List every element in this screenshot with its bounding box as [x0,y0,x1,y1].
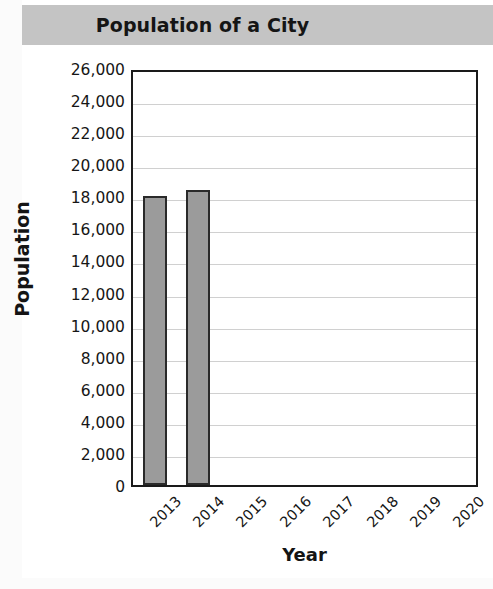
y-axis-tick-label: 12,000 [39,286,125,304]
x-axis-tick-label: 2018 [353,493,401,541]
y-axis-tick-label: 20,000 [39,157,125,175]
x-axis-tick-label: 2013 [136,493,184,541]
y-axis-tick-label: 24,000 [39,93,125,111]
chart-page: Population of a City 02,0004,0006,0008,0… [0,0,493,589]
plot-area [131,70,478,487]
y-axis-tick-label: 0 [39,478,125,496]
y-axis-tick-label: 14,000 [39,253,125,271]
gridline [133,457,476,458]
gridline [133,104,476,105]
x-axis-tick-label: 2016 [266,493,314,541]
gridline [133,393,476,394]
gridline [133,361,476,362]
y-axis-tick-label: 2,000 [39,446,125,464]
y-axis-tick-labels: 02,0004,0006,0008,00010,00012,00014,0001… [36,70,125,487]
y-axis-tick-label: 4,000 [39,414,125,432]
y-axis-tick-label: 10,000 [39,318,125,336]
y-axis-tick-label: 8,000 [39,350,125,368]
x-axis-tick-label: 2017 [309,493,357,541]
gridline [133,200,476,201]
y-axis-tick-label: 26,000 [39,61,125,79]
x-axis-tick-label: 2019 [396,493,444,541]
gridline [133,136,476,137]
x-axis-tick-label: 2015 [223,493,271,541]
x-axis-tick-label: 2020 [440,493,488,541]
y-axis-title: Population [11,194,33,324]
bar-chart: 02,0004,0006,0008,00010,00012,00014,0001… [0,0,493,589]
gridline [133,264,476,265]
gridline [133,297,476,298]
y-axis-tick-label: 16,000 [39,221,125,239]
gridline [133,425,476,426]
bar [143,196,167,485]
x-axis-title: Year [131,544,478,565]
gridline [133,329,476,330]
y-axis-tick-label: 6,000 [39,382,125,400]
y-axis-tick-label: 18,000 [39,189,125,207]
bar [186,190,210,485]
y-axis-tick-label: 22,000 [39,125,125,143]
gridline [133,168,476,169]
gridline [133,232,476,233]
x-axis-tick-label: 2014 [179,493,227,541]
